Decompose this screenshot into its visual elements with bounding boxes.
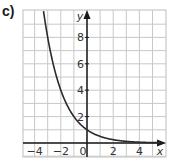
x-tick-label: −4 [26, 145, 42, 158]
exponential-graph: −4−20242468xy [0, 0, 172, 165]
x-tick-label: 2 [110, 145, 117, 158]
x-tick-label: −2 [53, 145, 69, 158]
x-tick-label: 0 [80, 145, 87, 158]
y-axis-label: y [76, 10, 84, 23]
y-tick-label: 8 [77, 31, 84, 44]
x-tick-label: 4 [136, 145, 143, 158]
x-axis-label: x [156, 145, 164, 158]
y-tick-label: 6 [77, 58, 84, 71]
y-tick-label: 4 [77, 84, 84, 97]
